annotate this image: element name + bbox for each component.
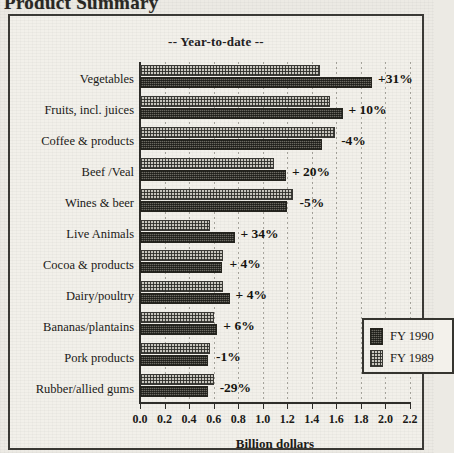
chart-legend: FY 1990 FY 1989 (362, 318, 454, 374)
x-axis-title: Billion dollars (140, 436, 410, 452)
bar-fy1989 (140, 158, 274, 169)
bar-row: Dairy/poultry+ 4% (140, 280, 410, 311)
x-tick-label: 1.2 (280, 412, 295, 427)
bar-fy1989 (140, 281, 223, 292)
category-label: Rubber/allied gums (36, 381, 134, 396)
legend-label-fy1990: FY 1990 (390, 329, 434, 344)
x-tick (410, 402, 411, 409)
x-tick-label: 1.0 (255, 412, 270, 427)
category-label: Cocoa & products (43, 257, 134, 272)
bar-fy1990 (140, 386, 208, 397)
chart-frame: -- Year-to-date -- 0.00.20.40.60.81.01.2… (8, 14, 424, 450)
category-label: Live Animals (66, 226, 134, 241)
category-label: Pork products (64, 350, 134, 365)
bar-fy1990 (140, 293, 230, 304)
bar-fy1990 (140, 324, 217, 335)
legend-item-fy1990: FY 1990 (370, 325, 448, 347)
pct-change-label: + 4% (229, 256, 260, 272)
legend-item-fy1989: FY 1989 (370, 347, 448, 369)
bar-fy1990 (140, 77, 372, 88)
pct-change-label: -4% (341, 133, 366, 149)
bar-row: Wines & beer-5% (140, 188, 410, 219)
bar-fy1989 (140, 127, 335, 138)
category-label: Dairy/poultry (66, 288, 134, 303)
page-title: Product Summary (4, 0, 159, 14)
legend-swatch-fy1990-icon (370, 328, 383, 345)
bar-fy1989 (140, 343, 210, 354)
x-tick-label: 1.4 (304, 412, 319, 427)
x-tick-label: 0.4 (182, 412, 197, 427)
bar-row: Vegetables+31% (140, 64, 410, 95)
bar-fy1989 (140, 220, 210, 231)
bar-fy1990 (140, 355, 208, 366)
bar-fy1989 (140, 312, 214, 323)
pct-change-label: + 6% (223, 318, 254, 334)
pct-change-label: + 10% (349, 102, 387, 118)
category-label: Fruits, incl. juices (44, 103, 134, 118)
x-tick-label: 2.2 (403, 412, 418, 427)
category-label: Coffee & products (41, 134, 134, 149)
pct-change-label: + 4% (236, 287, 267, 303)
x-tick-label: 0.2 (157, 412, 172, 427)
bar-fy1990 (140, 108, 343, 119)
pct-change-label: -1% (216, 349, 241, 365)
x-tick-label: 0.0 (133, 412, 148, 427)
x-tick-label: 2.0 (378, 412, 393, 427)
category-label: Beef /Veal (82, 165, 134, 180)
bar-row: Beef /Veal+ 20% (140, 157, 410, 188)
bar-fy1990 (140, 232, 235, 243)
bar-row: Fruits, incl. juices+ 10% (140, 95, 410, 126)
bar-row: Coffee & products-4% (140, 126, 410, 157)
bar-fy1989 (140, 250, 223, 261)
legend-swatch-fy1989-icon (370, 350, 383, 367)
legend-label-fy1989: FY 1989 (390, 351, 434, 366)
x-tick-label: 1.6 (329, 412, 344, 427)
bar-fy1990 (140, 170, 286, 181)
bar-fy1990 (140, 262, 222, 273)
pct-change-label: + 20% (292, 164, 330, 180)
x-tick-label: 0.8 (231, 412, 246, 427)
bar-fy1990 (140, 139, 322, 150)
x-tick-label: 1.8 (353, 412, 368, 427)
bar-fy1990 (140, 201, 287, 212)
bar-row: Cocoa & products+ 4% (140, 249, 410, 280)
bar-row: Live Animals+ 34% (140, 219, 410, 250)
category-label: Vegetables (80, 72, 134, 87)
pct-change-label: +31% (378, 71, 413, 87)
bar-row: Rubber/allied gums-29% (140, 373, 410, 404)
category-label: Bananas/plantains (43, 319, 134, 334)
pct-change-label: -29% (220, 380, 252, 396)
pct-change-label: + 34% (241, 226, 279, 242)
bar-fy1989 (140, 189, 293, 200)
category-label: Wines & beer (65, 196, 134, 211)
bar-fy1989 (140, 96, 330, 107)
bar-fy1989 (140, 65, 320, 76)
chart-subtitle: -- Year-to-date -- (10, 34, 422, 50)
x-tick-label: 0.6 (206, 412, 221, 427)
pct-change-label: -5% (299, 195, 324, 211)
bar-fy1989 (140, 374, 214, 385)
